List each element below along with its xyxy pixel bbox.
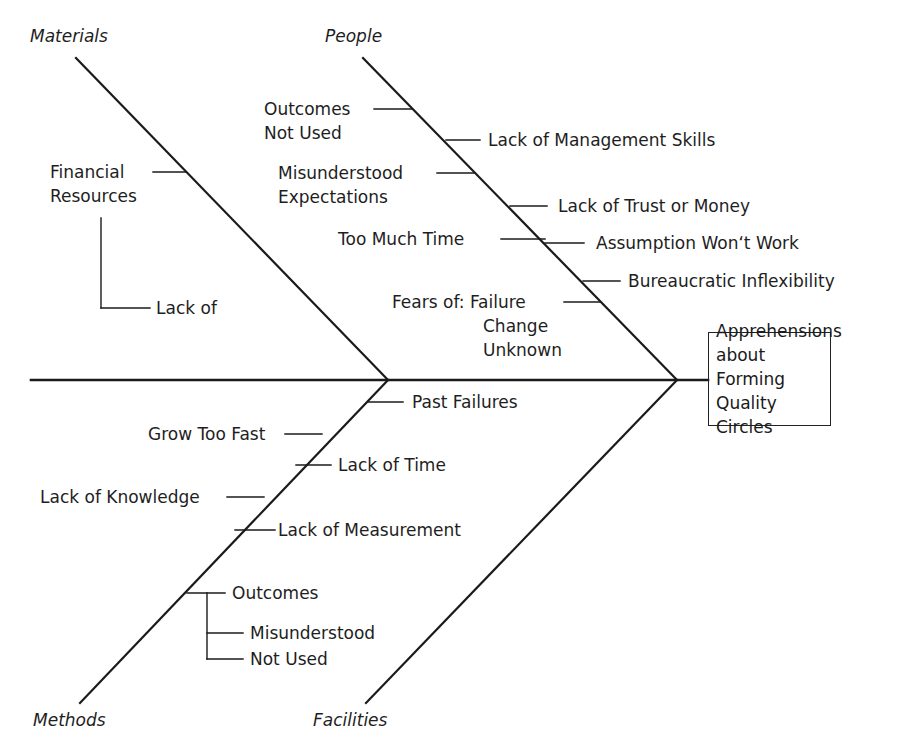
category-materials: Materials [30,26,108,46]
category-people: People [325,26,382,46]
cause-bureaucratic-inflexibility: Bureaucratic Inflexibility [628,269,835,293]
cause-misunderstood-expectations: Misunderstood Expectations [278,161,403,209]
cause-lack-of-time: Lack of Time [338,453,446,477]
cause-past-failures: Past Failures [412,390,518,414]
cause-line: Outcomes [264,97,350,121]
cause-lack-of: Lack of [156,296,217,320]
effect-box: Apprehensions about Forming Quality Circ… [708,332,831,426]
cause-line: Resources [50,184,137,208]
cause-too-much-time: Too Much Time [338,227,464,251]
cause-fears-of: Fears of: Failure Change Unknown [392,290,562,362]
effect-line: about Forming [716,343,830,391]
cause-line: Fears of: Failure [392,290,562,314]
effect-line: Apprehensions [716,319,830,343]
cause-line: Misunderstood [278,161,403,185]
category-facilities: Facilities [313,710,387,730]
cause-line: Unknown [392,338,562,362]
cause-lack-of-measurement: Lack of Measurement [278,518,461,542]
cause-lack-of-management-skills: Lack of Management Skills [488,128,715,152]
cause-misunderstood: Misunderstood [250,621,375,645]
cause-line: Change [392,314,562,338]
effect-line: Quality Circles [716,391,830,439]
cause-assumption-wont-work: Assumption Won‘t Work [596,231,799,255]
cause-financial-resources: Financial Resources [50,160,137,208]
cause-line: Expectations [278,185,403,209]
cause-line: Financial [50,160,137,184]
category-methods: Methods [33,710,106,730]
cause-not-used: Not Used [250,647,328,671]
cause-grow-too-fast: Grow Too Fast [148,422,265,446]
cause-line: Not Used [264,121,350,145]
cause-outcomes-not-used: Outcomes Not Used [264,97,350,145]
cause-lack-of-knowledge: Lack of Knowledge [40,485,200,509]
cause-outcomes: Outcomes [232,581,318,605]
cause-lack-of-trust-or-money: Lack of Trust or Money [558,194,750,218]
